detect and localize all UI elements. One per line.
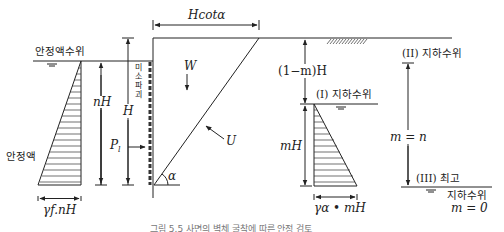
svg-text:파: 파 bbox=[135, 81, 143, 90]
figure-caption: 그림 5.5 사면의 벽체 굴착에 따른 안정 검토 bbox=[150, 223, 312, 232]
h-cot-alpha-label: Hcotα bbox=[187, 8, 225, 22]
groundwater-levels-2-3: (II) 지하수위 m = n (III) 최고 지하수위 m = 0 bbox=[388, 47, 492, 215]
svg-text:미: 미 bbox=[135, 63, 142, 72]
gw-level-1-symbol-icon bbox=[336, 107, 346, 109]
failure-plane-line bbox=[154, 38, 259, 185]
slurry-pressure-distribution: 안정액수위 bbox=[6, 45, 153, 217]
svg-text:괴: 괴 bbox=[135, 90, 142, 99]
groundwater-level-1: (1−m)H (I) 지하수위 mH bbox=[277, 40, 378, 215]
weight-force: W bbox=[184, 59, 198, 90]
uplift-arrow-icon bbox=[206, 126, 224, 139]
ground-hatching-icon bbox=[327, 39, 367, 44]
m-equals-n-label: m = n bbox=[390, 130, 427, 144]
one-minus-m-h-label: (1−m)H bbox=[278, 64, 327, 78]
svg-text:W: W bbox=[184, 59, 198, 73]
water-pressure-base-label: γα • mH bbox=[314, 201, 366, 215]
slurry-pressure-force: P l bbox=[109, 138, 145, 154]
slurry-level-symbol-icon bbox=[47, 64, 57, 66]
slurry-level-label: 안정액수위 bbox=[35, 45, 85, 57]
gw-level-2-label: (II) 지하수위 bbox=[402, 47, 462, 59]
svg-text:l: l bbox=[118, 145, 121, 154]
alpha-label: α bbox=[168, 169, 176, 183]
gw-level-3-bottom-label: 지하수위 bbox=[447, 189, 487, 201]
gw-level-3-top-label: (III) 최고 bbox=[416, 172, 460, 184]
H-label: H bbox=[122, 104, 134, 118]
slurry-pressure-base-label: γf.nH bbox=[43, 203, 77, 217]
gw-level-1-label: (I) 지하수위 bbox=[316, 88, 372, 100]
h-cot-alpha-dimension: Hcotα bbox=[153, 8, 259, 30]
svg-text:U: U bbox=[226, 134, 237, 148]
slurry-hatching bbox=[40, 68, 81, 182]
svg-text:소: 소 bbox=[135, 72, 142, 81]
failure-plane-vertical-text: 미 소 파 괴 bbox=[135, 63, 143, 99]
gw-level-3-symbol-icon bbox=[426, 190, 436, 192]
slurry-trench-stability-diagram: 안정액수위 bbox=[0, 0, 504, 232]
slurry-label: 안정액 bbox=[6, 150, 36, 162]
mH-label: mH bbox=[280, 139, 302, 153]
nH-label: nH bbox=[93, 95, 112, 109]
uplift-force: U bbox=[206, 126, 237, 148]
m-equals-0-label: m = 0 bbox=[451, 201, 488, 215]
depth-dimensions: nH H bbox=[92, 38, 134, 185]
